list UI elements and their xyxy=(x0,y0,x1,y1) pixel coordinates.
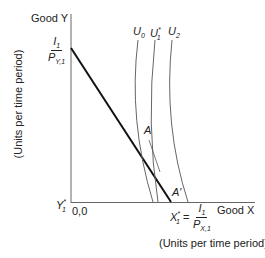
x-axis-units-label: (Units per time period) xyxy=(159,238,265,249)
leader-line-a xyxy=(149,140,160,172)
point-a-label: A xyxy=(144,125,151,136)
curve-label-u0: U0 xyxy=(133,26,145,39)
x-intercept-label: I1 PX,1 xyxy=(193,203,211,232)
origin-label: 0,0 xyxy=(72,206,87,217)
y-star-label: Y*1 xyxy=(56,198,66,213)
point-a-prime-label: A′ xyxy=(172,187,181,198)
indifference-curve-u1 xyxy=(151,40,158,202)
y-axis-units-label: (Units per time period) xyxy=(12,34,24,174)
x-axis-label: Good X xyxy=(217,205,254,216)
indifference-curve-u2 xyxy=(170,40,188,202)
curve-label-u1: U*1 xyxy=(150,26,161,41)
x-intercept-prefix: X*1 = xyxy=(170,210,189,225)
y-intercept-label: I1 PY,1 xyxy=(48,36,65,65)
curve-label-u2: U2 xyxy=(168,26,180,39)
budget-line xyxy=(71,48,171,202)
indifference-curve-u0 xyxy=(135,40,153,202)
y-axis-label: Good Y xyxy=(31,13,68,24)
